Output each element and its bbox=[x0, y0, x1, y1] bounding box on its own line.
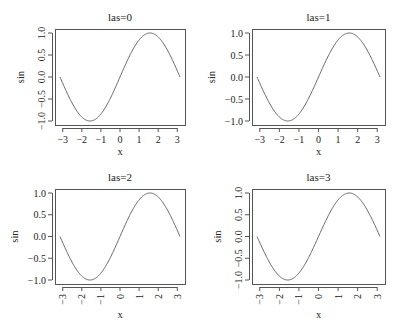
x-tick-label: −2 bbox=[76, 134, 87, 145]
x-tick-label: 1 bbox=[137, 134, 142, 145]
plot-frame bbox=[253, 30, 386, 126]
sine-curve bbox=[60, 193, 180, 280]
x-tick-label: 1 bbox=[333, 294, 344, 299]
figure: las=0−3−2−10123x−1.0−0.50.00.51.0sinlas=… bbox=[0, 0, 398, 332]
y-tick-label: 1.0 bbox=[231, 28, 244, 39]
x-axis-label: x bbox=[117, 146, 123, 157]
panel-title: las=2 bbox=[108, 171, 132, 183]
x-tick-label: 1 bbox=[336, 134, 341, 145]
x-tick-label: −1 bbox=[293, 294, 304, 305]
y-tick-label: 1.0 bbox=[34, 188, 47, 199]
y-axis-label: sin bbox=[212, 230, 223, 243]
y-tick-label: 0.5 bbox=[233, 209, 244, 222]
panel-title: las=3 bbox=[307, 171, 331, 183]
x-tick-label: 0 bbox=[118, 134, 123, 145]
x-axis-label: x bbox=[316, 309, 322, 320]
x-tick-label: 0 bbox=[316, 134, 321, 145]
y-tick-label: −1.0 bbox=[233, 271, 244, 289]
x-tick-label: 3 bbox=[175, 134, 180, 145]
sine-curve bbox=[257, 33, 380, 121]
x-axis-label: x bbox=[117, 309, 123, 320]
y-tick-label: 0.0 bbox=[36, 71, 47, 84]
y-tick-label: −1.0 bbox=[28, 275, 46, 286]
x-tick-label: −2 bbox=[76, 294, 87, 305]
plot-frame bbox=[56, 190, 186, 285]
panel-title: las=0 bbox=[108, 11, 132, 23]
x-tick-label: 3 bbox=[172, 294, 183, 299]
y-tick-label: 1.0 bbox=[233, 187, 244, 200]
x-tick-label: −1 bbox=[96, 134, 107, 145]
panel-las-2: las=2−3−2−10123x−1.0−0.50.00.51.0sin bbox=[9, 171, 186, 320]
y-tick-label: 0.5 bbox=[34, 209, 47, 220]
y-tick-label: −0.5 bbox=[28, 253, 46, 264]
y-tick-label: −1.0 bbox=[36, 112, 47, 130]
y-tick-label: 1.0 bbox=[36, 27, 47, 40]
x-tick-label: −3 bbox=[254, 294, 265, 305]
x-tick-label: 2 bbox=[156, 134, 161, 145]
x-tick-label: −2 bbox=[274, 134, 285, 145]
x-tick-label: −3 bbox=[57, 134, 68, 145]
x-tick-label: −2 bbox=[274, 294, 285, 305]
x-tick-label: 0 bbox=[313, 294, 324, 299]
x-tick-label: 3 bbox=[372, 294, 383, 299]
y-tick-label: −0.5 bbox=[233, 249, 244, 267]
y-tick-label: 0.5 bbox=[36, 49, 47, 62]
x-tick-label: 0 bbox=[115, 294, 126, 299]
y-tick-label: 0.5 bbox=[231, 50, 244, 61]
y-axis-label: sin bbox=[206, 70, 217, 83]
y-tick-label: 0.0 bbox=[233, 230, 244, 243]
plot-frame bbox=[253, 190, 386, 285]
y-tick-label: −0.5 bbox=[36, 90, 47, 108]
panel-title: las=1 bbox=[307, 11, 331, 23]
x-tick-label: −1 bbox=[95, 294, 106, 305]
y-axis-label: sin bbox=[15, 70, 26, 83]
x-tick-label: 1 bbox=[134, 294, 145, 299]
x-tick-label: −1 bbox=[294, 134, 305, 145]
y-tick-label: −1.0 bbox=[225, 116, 243, 127]
x-tick-label: 2 bbox=[355, 134, 360, 145]
y-tick-label: −0.5 bbox=[225, 94, 243, 105]
sine-curve bbox=[257, 193, 380, 280]
x-tick-label: 3 bbox=[375, 134, 380, 145]
y-tick-label: 0.0 bbox=[231, 72, 244, 83]
x-tick-label: −3 bbox=[57, 294, 68, 305]
x-tick-label: 2 bbox=[352, 294, 363, 299]
y-axis-label: sin bbox=[9, 230, 20, 243]
y-tick-label: 0.0 bbox=[34, 231, 47, 242]
panel-las-0: las=0−3−2−10123x−1.0−0.50.00.51.0sin bbox=[15, 11, 186, 157]
panel-las-3: las=3−3−2−10123x−1.0−0.50.00.51.0sin bbox=[212, 171, 386, 320]
x-axis-label: x bbox=[316, 146, 322, 157]
panel-las-1: las=1−3−2−10123x−1.0−0.50.00.51.0sin bbox=[206, 11, 386, 157]
x-tick-label: −3 bbox=[254, 134, 265, 145]
x-tick-label: 2 bbox=[153, 294, 164, 299]
sine-curve bbox=[60, 33, 180, 121]
plot-frame bbox=[56, 30, 186, 126]
